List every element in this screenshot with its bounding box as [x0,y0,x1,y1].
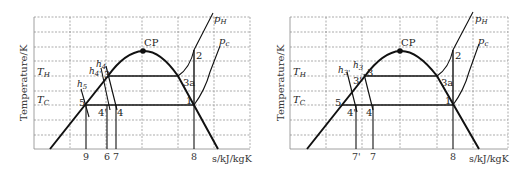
pc-label: pc [219,36,229,49]
point-5: 5 [79,98,85,108]
ph-label: pH [214,14,227,27]
pc-label: pc [478,36,488,49]
ph-isobar [437,12,473,76]
point-2: 2 [455,51,461,61]
x-tick-8: 8 [450,151,456,162]
right-ts-diagram: Temperature/K s/kJ/kgK TH TC CP pH pc h3… [265,0,530,177]
point-3: 3 [367,68,373,78]
y-axis-label: Temperature/K [18,45,29,121]
h3-label: h3 [353,60,363,73]
right-diagram-graphics [265,0,531,177]
x-tick-6: 6 [104,151,110,162]
point-1: 1 [186,96,192,106]
point-1: 1 [445,96,451,106]
saturation-dome [50,51,218,149]
point-3: 3 [104,70,110,80]
h4p-label: h4' [89,66,101,79]
x-tick-7: 7 [370,151,376,162]
x-axis-label: s/kJ/kgK [469,153,509,164]
point-4p: 4' [98,108,107,118]
critical-point-marker [397,48,403,54]
x-tick-9: 9 [83,151,89,162]
tc-label: TC [37,95,49,108]
tc-label: TC [293,95,305,108]
left-ts-diagram: Temperature/K s/kJ/kgK TH TC CP pH pc h4… [0,0,265,177]
point-3a: 3a [441,78,453,88]
point-4p: 4' [347,108,356,118]
x-axis-label: s/kJ/kgK [212,153,252,164]
th-label: TH [293,67,306,80]
y-axis-label: Temperature/K [275,45,286,121]
point-4: 4 [117,108,123,118]
h5-label: h5 [77,79,87,92]
x-tick-7p: 7' [352,151,361,162]
x-tick-8: 8 [191,151,197,162]
ph-isobar [178,13,213,76]
point-2: 2 [196,51,202,61]
h3p-label: h3' [338,65,350,78]
point-3p: 3' [353,76,362,86]
cp-label: CP [401,38,415,48]
point-5: 5 [335,98,341,108]
critical-point-marker [140,48,146,54]
x-tick-7: 7 [113,151,119,162]
point-4: 4 [366,108,372,118]
th-label: TH [37,67,50,80]
cp-label: CP [144,38,158,48]
point-3a: 3a [183,78,195,88]
ph-label: pH [475,14,488,27]
